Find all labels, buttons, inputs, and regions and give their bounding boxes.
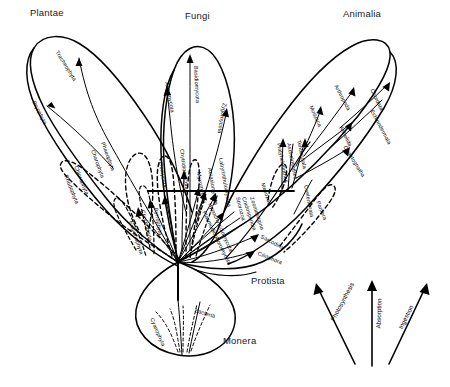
kingdom-label-protista: Protista [251, 275, 285, 286]
plantae-outline [30, 37, 192, 262]
legend-arrowhead-photosynthesis [314, 283, 324, 295]
plantae-arrow-trach [76, 58, 83, 66]
legend-arrowhead-ingestion [420, 283, 430, 295]
animalia-arrow-chordata [383, 82, 391, 92]
kingdom-label-animalia: Animalia [343, 8, 381, 19]
monera-branch [170, 309, 180, 352]
monera-outline [136, 262, 236, 356]
legend-arrowhead-absorption [367, 280, 377, 291]
fungi-arrow-basidio [187, 54, 194, 63]
kingdom-label-fungi: Fungi [185, 10, 210, 21]
plantae-branch-bryophyta [47, 106, 113, 168]
legend-label-absorption: Absorption [375, 298, 383, 328]
monera-stem [178, 300, 182, 355]
legend-arrow-photosynthesis-line [318, 288, 355, 364]
kingdom-label-plantae: Plantae [30, 7, 64, 18]
legend-arrow-ingestion-line [389, 288, 425, 364]
phylogenetic-tree-diagram: Plantae Fungi Animalia Protista Monera T… [0, 0, 450, 387]
kingdom-label-monera: Monera [223, 335, 256, 346]
